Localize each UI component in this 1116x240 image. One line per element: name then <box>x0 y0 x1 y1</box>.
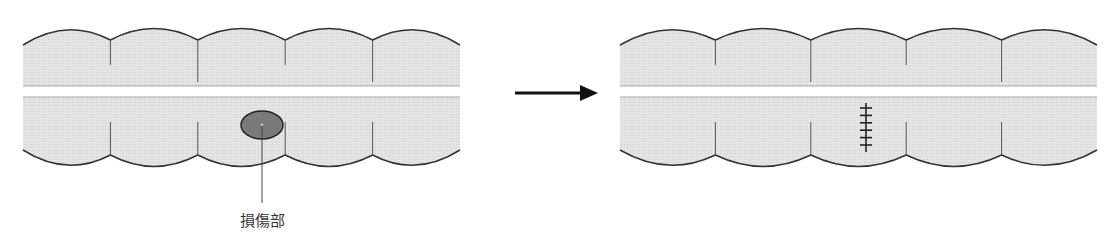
before-panel <box>23 29 460 167</box>
lesion-label: 損傷部 <box>240 212 285 230</box>
right-arrow-icon <box>515 85 598 101</box>
upper-band <box>23 29 460 86</box>
intestine-repair-diagram: 損傷部 <box>0 0 1116 240</box>
lower-band <box>23 97 460 166</box>
lower-band <box>620 97 1097 166</box>
upper-band <box>620 29 1097 86</box>
after-panel <box>620 29 1097 167</box>
